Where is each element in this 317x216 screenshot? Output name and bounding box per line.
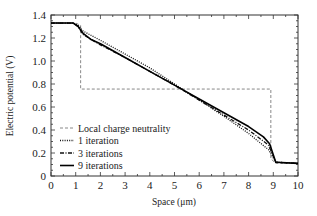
y-tick-label: 1.4 bbox=[32, 9, 46, 21]
legend-label: 3 iterations bbox=[78, 148, 123, 159]
x-tick-label: 8 bbox=[246, 179, 252, 191]
y-tick-label: 1.0 bbox=[32, 55, 46, 67]
x-tick-label: 3 bbox=[122, 179, 128, 191]
electric-potential-chart: 01234567891000.20.40.60.81.01.21.4 Space… bbox=[0, 0, 317, 216]
x-tick-label: 5 bbox=[172, 179, 178, 191]
x-tick-label: 0 bbox=[48, 179, 54, 191]
x-tick-label: 6 bbox=[196, 179, 202, 191]
x-tick-label: 9 bbox=[271, 179, 277, 191]
legend-label: 9 iterations bbox=[78, 160, 123, 171]
x-tick-label: 10 bbox=[293, 179, 305, 191]
y-tick-label: 0.4 bbox=[32, 124, 46, 136]
x-tick-label: 4 bbox=[147, 179, 153, 191]
y-tick-label: 0.6 bbox=[32, 101, 46, 113]
y-tick-label: 0.8 bbox=[32, 78, 46, 90]
y-axis-label: Electric potential (V) bbox=[5, 56, 16, 137]
legend: Local charge neutrality1 iteration3 iter… bbox=[60, 123, 171, 172]
x-tick-label: 2 bbox=[98, 179, 104, 191]
x-axis-label: Space (μm) bbox=[152, 197, 196, 208]
y-tick-label: 0 bbox=[41, 170, 47, 182]
legend-label: 1 iteration bbox=[78, 135, 119, 146]
axis-tick-labels: 01234567891000.20.40.60.81.01.21.4 bbox=[32, 9, 304, 191]
y-tick-label: 1.2 bbox=[32, 32, 46, 44]
y-tick-label: 0.2 bbox=[32, 147, 46, 159]
x-tick-label: 1 bbox=[73, 179, 79, 191]
legend-label: Local charge neutrality bbox=[78, 123, 171, 134]
x-tick-label: 7 bbox=[221, 179, 227, 191]
